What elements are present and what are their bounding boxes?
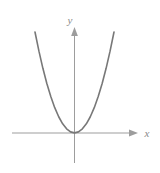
y-axis-arrow-icon xyxy=(71,27,78,36)
y-axis-label: y xyxy=(67,14,73,26)
graph-figure: y x xyxy=(0,0,160,173)
plot-canvas: y x xyxy=(0,0,160,173)
x-axis-arrow-icon xyxy=(129,130,138,137)
x-axis-label: x xyxy=(144,127,150,139)
